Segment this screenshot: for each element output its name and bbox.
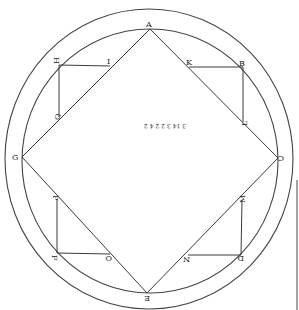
geometric-diagram: A B C D E F G H I K L M N O P Q 3 14 3 2… bbox=[0, 0, 299, 310]
label-q: Q bbox=[53, 113, 62, 120]
label-b: B bbox=[239, 59, 245, 68]
label-h: H bbox=[52, 57, 61, 64]
label-p: P bbox=[51, 195, 60, 201]
label-n: N bbox=[183, 255, 190, 264]
label-c: C bbox=[278, 154, 284, 163]
outer-circle bbox=[5, 9, 293, 309]
corner-figure-f bbox=[57, 199, 110, 254]
label-o: O bbox=[105, 254, 112, 263]
center-note: 3 14 3 2 2 4 2 bbox=[144, 123, 186, 130]
corner-figure-d bbox=[188, 200, 242, 255]
label-a: A bbox=[145, 20, 152, 29]
label-g: G bbox=[12, 153, 18, 162]
label-f: F bbox=[50, 255, 59, 261]
label-l: L bbox=[240, 120, 249, 126]
label-e: E bbox=[144, 294, 150, 303]
label-m: M bbox=[238, 195, 247, 203]
corner-figure-b bbox=[189, 67, 243, 122]
label-k: K bbox=[186, 58, 193, 67]
corner-figure-h bbox=[59, 65, 110, 117]
label-i: I bbox=[107, 57, 110, 66]
label-d: D bbox=[238, 254, 244, 263]
